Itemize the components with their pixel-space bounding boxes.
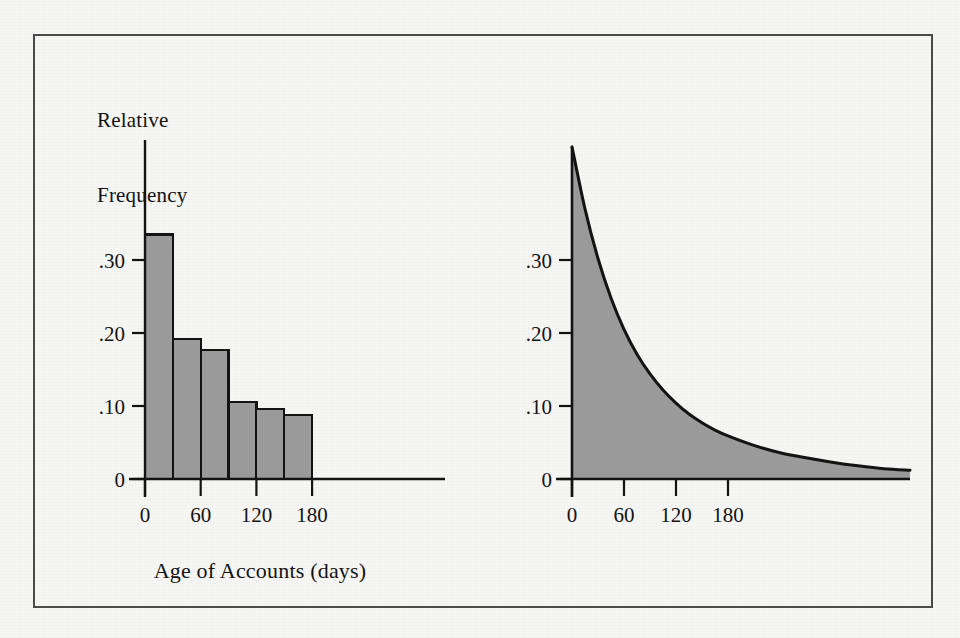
density-curve-plot: 0.10.20.30060120180 xyxy=(485,36,935,610)
x-tick-label: 180 xyxy=(296,503,328,527)
histogram-bar xyxy=(256,409,284,479)
figure-frame: Relative Frequency 0.10.20.30060120180 A… xyxy=(33,34,933,608)
panel-histogram: Relative Frequency 0.10.20.30060120180 A… xyxy=(35,36,485,610)
y-tick-label: .10 xyxy=(99,395,125,419)
x-tick-label: 120 xyxy=(241,503,273,527)
x-tick-label: 0 xyxy=(140,503,151,527)
y-tick-label: .20 xyxy=(526,322,552,346)
x-axis-caption-left: Age of Accounts (days) xyxy=(60,558,460,584)
x-tick-label: 60 xyxy=(614,503,635,527)
histogram-bar xyxy=(201,350,229,479)
y-tick-label: 0 xyxy=(542,468,553,492)
x-axis-caption-right: Age of Accounts (days) xyxy=(955,558,960,584)
panel-density-curve: Relative Frequency 0.10.20.30060120180 A… xyxy=(485,36,935,610)
histogram-plot: 0.10.20.30060120180 xyxy=(35,36,485,610)
histogram-bar xyxy=(284,415,312,479)
y-tick-label: 0 xyxy=(115,468,126,492)
y-tick-label: .10 xyxy=(526,395,552,419)
y-tick-label: .30 xyxy=(526,249,552,273)
density-area xyxy=(572,147,910,479)
x-tick-label: 0 xyxy=(567,503,578,527)
histogram-bar xyxy=(173,339,201,479)
x-tick-label: 120 xyxy=(660,503,692,527)
bar-series xyxy=(145,234,312,479)
histogram-bar xyxy=(145,234,173,479)
y-tick-label: .20 xyxy=(99,322,125,346)
histogram-bar xyxy=(229,402,257,479)
x-tick-label: 180 xyxy=(712,503,744,527)
figure-page: Relative Frequency 0.10.20.30060120180 A… xyxy=(0,0,960,638)
y-tick-label: .30 xyxy=(99,249,125,273)
x-tick-label: 60 xyxy=(190,503,211,527)
